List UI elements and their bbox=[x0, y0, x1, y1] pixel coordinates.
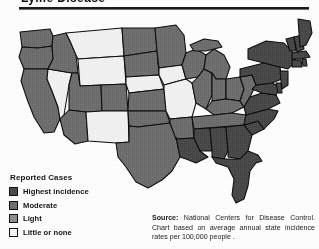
state-SD bbox=[124, 51, 159, 77]
state-NJ bbox=[280, 71, 288, 89]
headline-clip: Lyme Disease bbox=[0, 0, 319, 7]
legend-title: Reported Cases bbox=[10, 173, 89, 182]
swatch-little-or-none bbox=[9, 228, 18, 237]
swatch-light bbox=[9, 214, 18, 223]
swatch-highest-incidence bbox=[9, 187, 18, 196]
state-CT bbox=[292, 60, 302, 67]
state-AZ bbox=[60, 110, 88, 144]
legend-label-moderate: Moderate bbox=[23, 201, 57, 210]
legend-item-highest-incidence: Highest incidence bbox=[9, 185, 89, 198]
source-prefix: Source: bbox=[152, 214, 178, 222]
state-CO bbox=[101, 84, 128, 111]
state-RI bbox=[302, 59, 307, 66]
legend: Reported Cases Highest incidence Moderat… bbox=[9, 173, 89, 239]
header-divider-shadow bbox=[19, 9, 309, 10]
state-FL bbox=[212, 151, 262, 203]
legend-label-light: Light bbox=[23, 214, 42, 223]
legend-label-little-or-none: Little or none bbox=[23, 228, 72, 237]
state-WY bbox=[78, 56, 126, 86]
state-MI-up bbox=[190, 39, 222, 51]
legend-item-little-or-none: Little or none bbox=[9, 226, 89, 239]
state-KY bbox=[206, 99, 244, 115]
state-WA bbox=[20, 29, 53, 48]
state-KS bbox=[128, 89, 166, 111]
state-OR bbox=[19, 46, 53, 69]
state-MO bbox=[164, 79, 196, 119]
source-note: Source: National Centers for Disease Con… bbox=[152, 214, 315, 243]
page-title: Lyme Disease bbox=[21, 0, 105, 5]
state-ME bbox=[298, 19, 312, 47]
legend-label-highest-incidence: Highest incidence bbox=[23, 187, 89, 196]
state-AL bbox=[210, 127, 228, 159]
state-MA bbox=[292, 51, 310, 59]
state-MN bbox=[155, 25, 186, 68]
legend-item-light: Light bbox=[9, 212, 89, 225]
legend-item-moderate: Moderate bbox=[9, 199, 89, 212]
swatch-moderate bbox=[9, 201, 18, 210]
state-NM bbox=[86, 111, 129, 143]
